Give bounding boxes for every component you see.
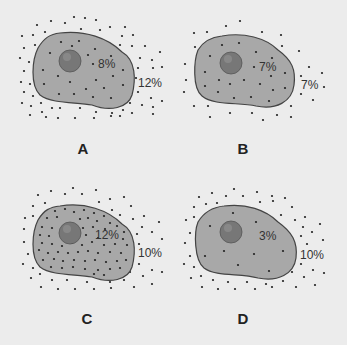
- panel-label: C: [72, 310, 102, 327]
- inside-concentration: 7%: [259, 60, 276, 74]
- inside-concentration: 3%: [259, 229, 276, 243]
- panel-label: B: [228, 140, 258, 157]
- panel-a: 8% 12% A: [0, 0, 174, 172]
- cell-membrane: [196, 205, 297, 279]
- cell-membrane: [33, 205, 134, 280]
- panel-c: 12% 10% C: [0, 172, 174, 344]
- outside-concentration: 10%: [300, 248, 324, 262]
- nucleus-icon: [59, 222, 81, 244]
- cell-b-graphic: [174, 0, 347, 172]
- inside-concentration: 8%: [98, 57, 115, 71]
- nucleus-icon: [220, 221, 242, 243]
- outside-concentration: 10%: [138, 246, 162, 260]
- cell-membrane: [33, 32, 134, 108]
- outside-concentration: 7%: [301, 78, 318, 92]
- panel-label: D: [228, 310, 258, 327]
- panel-b: 7% 7% B: [174, 0, 347, 172]
- cell-membrane: [195, 35, 295, 107]
- panel-d: 3% 10% D: [174, 172, 347, 344]
- inside-concentration: 12%: [95, 228, 119, 242]
- nucleus-icon: [59, 50, 81, 72]
- outside-concentration: 12%: [138, 76, 162, 90]
- panel-label: A: [68, 140, 98, 157]
- nucleus-icon: [220, 52, 242, 74]
